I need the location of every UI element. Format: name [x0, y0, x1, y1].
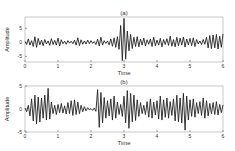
panel-b-xtick-label: 6 [222, 133, 225, 139]
panel-b-ylabel: Amplitude [4, 97, 10, 121]
panel-a-xtick-label: 3 [123, 63, 126, 69]
panel-b-ytick-label: 0 [19, 106, 22, 112]
panel-b-ytick-label: -5 [18, 129, 23, 135]
panel-b-xtick-label: 5 [189, 133, 192, 139]
panel-b-title: (b) [120, 79, 127, 85]
figure: (a)0123456-505TimeAmplitude(b)0123456-50… [0, 0, 235, 151]
panel-b-xtick-label: 2 [90, 133, 93, 139]
panel-a-xtick-label: 1 [57, 63, 60, 69]
panel-b-xtick-label: 0 [24, 133, 27, 139]
panel-b-xtick-label: 1 [57, 133, 60, 139]
panel-a-ytick-label: 5 [19, 25, 22, 31]
panel-b-xtick-label: 4 [156, 133, 159, 139]
panel-a-xlabel: Time [117, 70, 131, 76]
panel-b-xtick-label: 3 [123, 133, 126, 139]
panel-b-ytick-label: 5 [19, 83, 22, 89]
panel-a-ylabel: Amplitude [4, 27, 10, 51]
panel-a-ytick-label: -5 [18, 53, 23, 59]
panel-a-xtick-label: 0 [24, 63, 27, 69]
panel-a-xtick-label: 2 [90, 63, 93, 69]
panel-a-ytick-label: 0 [19, 39, 22, 45]
panel-a-xtick-label: 4 [156, 63, 159, 69]
panel-a-xtick-label: 6 [222, 63, 225, 69]
panel-a-xtick-label: 5 [189, 63, 192, 69]
panel-b-frame [25, 86, 223, 132]
panel-a-title: (a) [120, 10, 127, 16]
panel-b-xlabel: Time [117, 140, 131, 146]
